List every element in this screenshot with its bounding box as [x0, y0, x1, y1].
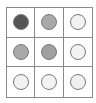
grid-cell: [64, 38, 92, 68]
grid-cell: [7, 8, 35, 38]
circle-grid: [6, 7, 93, 98]
circle-empty-icon: [70, 14, 86, 30]
grid-cell: [7, 67, 35, 97]
circle-medium-icon: [41, 44, 57, 60]
circle-dark-icon: [13, 14, 29, 30]
grid-cell: [64, 8, 92, 38]
grid-cell: [35, 38, 63, 68]
circle-medium-icon: [13, 44, 29, 60]
grid-cell: [64, 67, 92, 97]
circle-medium-icon: [41, 14, 57, 30]
circle-empty-icon: [13, 74, 29, 90]
grid-cell: [35, 67, 63, 97]
grid-cell: [7, 38, 35, 68]
circle-empty-icon: [70, 74, 86, 90]
circle-empty-icon: [41, 74, 57, 90]
circle-empty-icon: [70, 44, 86, 60]
grid-cell: [35, 8, 63, 38]
